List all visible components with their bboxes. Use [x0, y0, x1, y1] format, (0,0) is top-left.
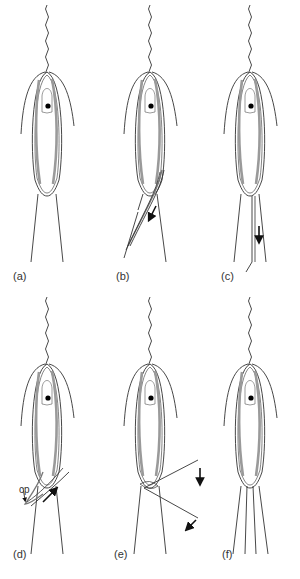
- arrow-down-left: [150, 206, 156, 218]
- panel-f: [224, 297, 277, 554]
- panel-e: [124, 297, 200, 554]
- panel-a: [21, 5, 74, 262]
- figure-canvas: [0, 0, 300, 579]
- panel-label-a: (a): [13, 270, 26, 282]
- cp-annotation: cp: [19, 484, 30, 495]
- panel-label-b: (b): [116, 270, 129, 282]
- panel-c: [224, 5, 277, 272]
- panel-d: [21, 297, 74, 554]
- panel-label-c: (c): [221, 270, 234, 282]
- arrow-down-left-2: [188, 520, 196, 528]
- panel-label-d: (d): [13, 548, 26, 560]
- panel-label-e: (e): [114, 548, 127, 560]
- arrow-up-right: [43, 490, 55, 502]
- panel-label-f: (f): [222, 548, 232, 560]
- panel-b: [124, 5, 177, 262]
